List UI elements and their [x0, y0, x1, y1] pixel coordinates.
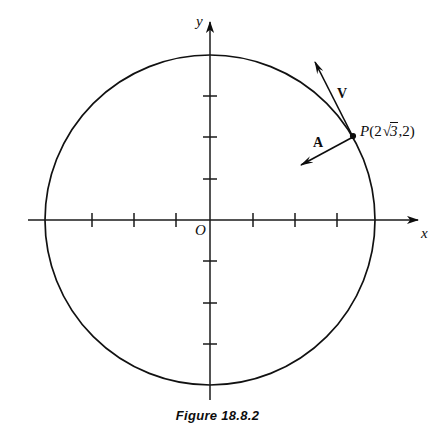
point-p-x-coefficient: 2: [374, 123, 382, 139]
coordinate-plot: [0, 0, 435, 435]
y-axis-label: y: [196, 14, 203, 29]
figure-caption: Figure 18.8.2: [0, 408, 435, 423]
point-p-y-value: 2: [402, 123, 410, 139]
point-p-marker: [350, 133, 356, 139]
radicand: 3: [390, 122, 399, 139]
acceleration-vector-label: A: [313, 136, 323, 150]
point-p-name: P: [360, 123, 369, 139]
origin-label: O: [195, 223, 206, 238]
velocity-vector-arrow: [315, 62, 353, 137]
x-axis-label: x: [421, 226, 428, 241]
square-root-icon: √3: [382, 124, 399, 139]
point-p-label: P(2√3,2): [360, 124, 415, 139]
acceleration-vector-arrow: [301, 137, 353, 165]
figure-container: y x O V A P(2√3,2) Figure 18.8.2: [0, 0, 435, 435]
point-p-close-paren: ): [410, 123, 415, 139]
velocity-vector-label: V: [337, 87, 347, 101]
